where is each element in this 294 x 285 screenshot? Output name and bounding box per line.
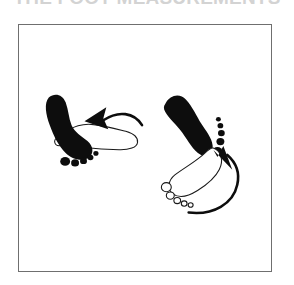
left-filled-toe-4 (87, 155, 93, 161)
right-filled-toe-5 (216, 117, 221, 122)
right-outline-toe-4 (181, 201, 187, 206)
title-strip: THE FOOT MEASUREMENTS (0, 0, 294, 9)
right-outline-toe-5 (188, 203, 193, 208)
right-filled-toe-3 (218, 130, 225, 136)
left-filled-toe-5 (93, 151, 98, 156)
left-filled-toe-3 (80, 158, 87, 164)
footprint-diagram (19, 25, 271, 271)
left-filled-toe-1 (60, 157, 70, 166)
right-outline-toe-3 (174, 197, 181, 203)
right-foot-pair (161, 92, 238, 213)
right-outline-toe-2 (166, 192, 174, 199)
left-filled-toe-2 (71, 159, 79, 166)
right-filled-toe-4 (218, 123, 224, 128)
right-outline-footprint (161, 147, 223, 207)
right-filled-toe-2 (216, 138, 224, 145)
left-foot-pair (46, 95, 142, 167)
figure-frame (18, 24, 272, 272)
page-title: THE FOOT MEASUREMENTS (13, 0, 280, 9)
right-outline-toe-1 (161, 183, 171, 192)
